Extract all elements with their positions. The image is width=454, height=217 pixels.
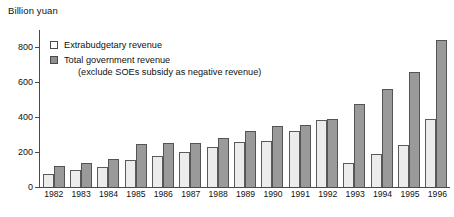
- bar-extrabudgetary: [207, 147, 218, 187]
- legend-sublabel-total-government: (exclude SOEs subsidy as negative revenu…: [78, 67, 261, 77]
- bar-total-government: [163, 143, 174, 187]
- bar-extrabudgetary: [179, 152, 190, 187]
- bar-total-government: [136, 144, 147, 187]
- legend-item-total-government: Total government revenue (exclude SOEs s…: [50, 54, 261, 79]
- bar-total-government: [436, 40, 447, 187]
- x-axis-labels: 1982198319841985198619871988198919901991…: [40, 189, 451, 199]
- x-tick-label: 1986: [150, 189, 177, 199]
- bar-extrabudgetary: [343, 163, 354, 187]
- bar-extrabudgetary: [70, 170, 81, 187]
- bar-total-government: [272, 126, 283, 187]
- bar-extrabudgetary: [125, 160, 136, 187]
- y-tick-label: 200: [18, 147, 33, 157]
- bar-extrabudgetary: [398, 145, 409, 187]
- x-tick-label: 1985: [122, 189, 149, 199]
- x-tick-label: 1992: [314, 189, 341, 199]
- y-tick-mark: [35, 187, 39, 188]
- bar-total-government: [327, 119, 338, 187]
- bar-group: [341, 30, 368, 187]
- bar-total-government: [382, 89, 393, 187]
- bar-extrabudgetary: [234, 142, 245, 187]
- x-tick-label: 1989: [232, 189, 259, 199]
- x-tick-label: 1995: [396, 189, 423, 199]
- bar-total-government: [300, 125, 311, 187]
- bar-extrabudgetary: [371, 154, 382, 187]
- x-tick-label: 1990: [259, 189, 286, 199]
- bar-group: [286, 30, 313, 187]
- x-axis-line: [39, 187, 450, 188]
- bar-extrabudgetary: [425, 119, 436, 187]
- y-tick-mark: [35, 47, 39, 48]
- bar-group: [313, 30, 340, 187]
- legend-label-extrabudgetary: Extrabudgetary revenue: [64, 39, 162, 52]
- y-tick-mark: [35, 152, 39, 153]
- x-tick-label: 1987: [177, 189, 204, 199]
- y-axis-title: Billion yuan: [8, 5, 58, 16]
- x-tick-label: 1988: [204, 189, 231, 199]
- bar-extrabudgetary: [261, 141, 272, 187]
- bar-total-government: [218, 138, 229, 187]
- bar-extrabudgetary: [316, 120, 327, 187]
- y-tick-mark: [35, 117, 39, 118]
- y-tick-label: 0: [28, 182, 33, 192]
- y-tick-label: 400: [18, 112, 33, 122]
- chart-legend: Extrabudgetary revenue Total government …: [50, 39, 261, 81]
- legend-swatch-light-icon: [50, 41, 58, 49]
- x-tick-label: 1994: [369, 189, 396, 199]
- bar-group: [395, 30, 422, 187]
- x-tick-label: 1991: [287, 189, 314, 199]
- bar-total-government: [54, 166, 65, 187]
- bar-group: [423, 30, 450, 187]
- bar-total-government: [190, 143, 201, 187]
- bar-extrabudgetary: [97, 167, 108, 187]
- bar-chart: Billion yuan 0200400600800 1982198319841…: [0, 0, 454, 217]
- bar-group: [368, 30, 395, 187]
- bar-extrabudgetary: [152, 156, 163, 187]
- bar-extrabudgetary: [43, 174, 54, 187]
- legend-swatch-dark-icon: [50, 56, 58, 64]
- legend-item-extrabudgetary: Extrabudgetary revenue: [50, 39, 261, 52]
- x-tick-label: 1982: [40, 189, 67, 199]
- bar-group: [259, 30, 286, 187]
- y-tick-label: 800: [18, 42, 33, 52]
- bar-total-government: [245, 131, 256, 187]
- bar-total-government: [108, 159, 119, 187]
- bar-total-government: [81, 163, 92, 187]
- bar-total-government: [354, 104, 365, 187]
- x-tick-label: 1984: [95, 189, 122, 199]
- bar-total-government: [409, 72, 420, 187]
- x-tick-label: 1983: [67, 189, 94, 199]
- y-tick-mark: [35, 82, 39, 83]
- legend-label-total-government: Total government revenue: [64, 55, 170, 65]
- x-tick-label: 1996: [424, 189, 451, 199]
- y-tick-label: 600: [18, 77, 33, 87]
- x-tick-label: 1993: [341, 189, 368, 199]
- bar-extrabudgetary: [289, 131, 300, 187]
